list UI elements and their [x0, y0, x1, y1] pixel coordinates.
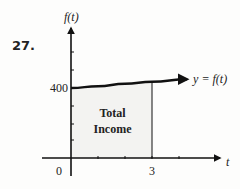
curve-label: y = f(t)	[192, 72, 227, 86]
y-axis-label: f(t)	[64, 10, 79, 24]
figure: 27. t f(t) 03 400 y = f(t) Total Income	[0, 0, 240, 189]
y-tick-labels: 400	[50, 81, 68, 95]
region-label-line-1: Total	[99, 106, 126, 120]
problem-number: 27.	[12, 38, 35, 53]
x-axis-label: t	[226, 155, 230, 169]
y-tick-label: 400	[50, 81, 68, 95]
region-label-line-2: Income	[94, 122, 133, 136]
x-tick-label: 0	[56, 164, 62, 178]
x-tick-label: 3	[149, 164, 155, 178]
